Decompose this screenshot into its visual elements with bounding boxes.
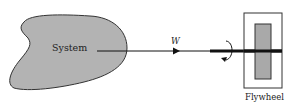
arrow-right-icon [173, 48, 180, 55]
flywheel-label: Flywheel [245, 92, 284, 102]
work-label: W [171, 36, 181, 46]
diagram-canvas: System W Flywheel [0, 0, 294, 105]
system-label: System [52, 42, 87, 53]
